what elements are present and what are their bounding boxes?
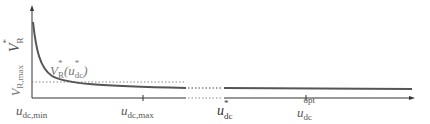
curve-label-arg-sup: * — [75, 59, 80, 68]
x-label-udc-star-sub: dc — [224, 111, 233, 121]
curve-label-sub: R — [58, 70, 64, 80]
x-axis-arrow-icon — [409, 96, 415, 100]
x-label-udc-star: u*dc — [217, 104, 233, 118]
curve-label-sup: * — [58, 59, 63, 68]
curve-label-arg-sub: dc — [75, 70, 84, 80]
x-label-udc-opt-sup: opt — [304, 96, 316, 105]
x-label-udc-min: udc,min — [16, 104, 47, 117]
x-label-udc-star-main: u — [217, 103, 224, 118]
y-axis-label-sub: R — [15, 37, 25, 43]
vr-curve-right — [224, 88, 412, 89]
y-axis-arrow-icon — [30, 5, 34, 11]
y-tick-sub: R,max — [15, 65, 25, 89]
y-axis-label-main: V — [7, 43, 22, 52]
diagram-canvas — [0, 0, 430, 124]
x-label-udc-max-main: u — [121, 103, 128, 118]
x-label-udc-min-main: u — [16, 103, 23, 118]
x-label-udc-min-sub: dc,min — [23, 110, 48, 120]
y-tick-main: V — [9, 89, 23, 96]
vr-curve — [33, 22, 186, 88]
curve-label-arg: (u — [64, 63, 75, 78]
curve-label-close: ) — [83, 63, 87, 78]
curve-label-main: V — [50, 63, 58, 78]
y-axis-label-sup: * — [2, 39, 11, 44]
x-label-udc-opt: uoptdc — [297, 106, 312, 119]
curve-label: V*R(u*dc) — [50, 64, 88, 77]
y-axis-label: V*R — [8, 37, 22, 52]
x-label-udc-max-sub: dc,max — [128, 110, 154, 120]
y-tick-label-vrmax: VR,max — [10, 65, 22, 96]
x-label-udc-opt-sub: dc — [304, 112, 313, 122]
x-label-udc-star-sup: * — [224, 99, 229, 108]
x-label-udc-opt-main: u — [297, 105, 304, 120]
x-label-udc-max: udc,max — [121, 104, 154, 117]
